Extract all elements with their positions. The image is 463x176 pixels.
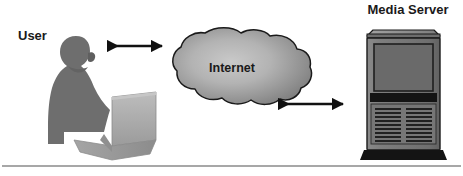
network-topology-diagram: User [0,0,463,176]
media-server-node: Media Server [360,2,448,160]
media-server-node-label: Media Server [368,2,449,17]
person-silhouette [48,36,110,144]
person-at-laptop-icon [48,36,156,160]
server-separator-strip [370,93,437,102]
server-display-panel [374,44,433,91]
internet-node-label: Internet [209,61,256,75]
user-node-label: User [18,28,47,43]
server-vent-slots-right [406,108,432,142]
server-vent-slots-left [375,108,401,142]
server-tower-icon [360,30,447,160]
internet-node: Internet [173,28,312,105]
diagram-canvas: User [0,0,463,176]
person-ear [88,52,95,62]
server-base-pedestal [360,150,447,160]
user-node: User [18,28,156,160]
laptop-lid [112,92,156,146]
